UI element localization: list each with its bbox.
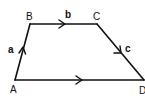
- vertex-label-b: B: [26, 11, 33, 22]
- vertex-label-d: D: [139, 85, 145, 96]
- vertex-label-c: C: [93, 11, 100, 22]
- edge-ab: [15, 24, 30, 80]
- edge-label-c: c: [125, 43, 131, 54]
- vector-diagram: B C A D a b c: [0, 0, 145, 98]
- edge-label-b: b: [65, 9, 71, 20]
- vertex-label-a: A: [10, 84, 17, 95]
- edge-label-a: a: [8, 44, 14, 55]
